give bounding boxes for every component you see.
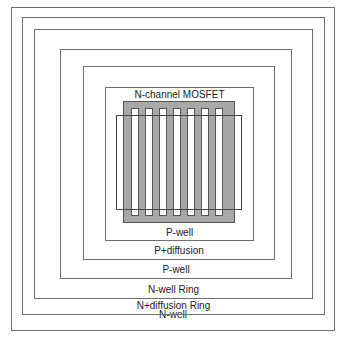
n-diffusion-ring-label: N+diffusion Ring xyxy=(23,300,324,312)
p-well-inner-label: P-well xyxy=(106,227,253,239)
gate-overlay-region xyxy=(116,115,242,210)
device-label: N-channel MOSFET xyxy=(106,89,253,101)
n-well-ring-label: N-well Ring xyxy=(35,284,312,296)
p-diffusion-label: P+diffusion xyxy=(84,245,274,257)
p-well-outer-label: P-well xyxy=(61,264,291,276)
